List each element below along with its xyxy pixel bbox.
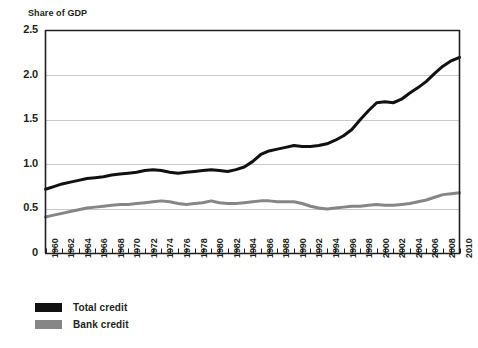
legend-item: Bank credit bbox=[35, 316, 129, 333]
x-tick-label: 1994 bbox=[331, 238, 341, 258]
series-lines bbox=[46, 57, 460, 217]
x-tick-label: 2004 bbox=[414, 238, 424, 258]
y-tick-label: 0 bbox=[12, 246, 38, 258]
legend-label: Total credit bbox=[73, 302, 127, 313]
x-tick-label: 1986 bbox=[265, 238, 275, 258]
x-tick-label: 1966 bbox=[99, 238, 109, 258]
x-tick-label: 1990 bbox=[298, 238, 308, 258]
chart-figure: Share of GDP 00.51.01.52.02.5 1960196219… bbox=[0, 0, 478, 348]
x-tick-label: 2006 bbox=[430, 238, 440, 258]
x-tick-label: 2002 bbox=[397, 238, 407, 258]
y-tick-label: 2.0 bbox=[12, 68, 38, 80]
x-tick-label: 1984 bbox=[248, 238, 258, 258]
legend-item: Total credit bbox=[35, 299, 129, 316]
x-tick-label: 1962 bbox=[66, 238, 76, 258]
legend-label: Bank credit bbox=[73, 319, 129, 330]
x-tick-label: 1972 bbox=[149, 238, 159, 258]
x-tick-label: 2000 bbox=[381, 238, 391, 258]
x-tick-label: 1996 bbox=[348, 238, 358, 258]
y-tick-label: 1.5 bbox=[12, 112, 38, 124]
x-tick-label: 1964 bbox=[83, 238, 93, 258]
x-tick-label: 1988 bbox=[281, 238, 291, 258]
x-tick-label: 1974 bbox=[165, 238, 175, 258]
plot-area bbox=[0, 0, 478, 348]
x-tick-label: 1976 bbox=[182, 238, 192, 258]
gridlines bbox=[46, 76, 460, 210]
legend-swatch bbox=[35, 303, 62, 312]
x-tick-label: 2008 bbox=[447, 238, 457, 258]
series-line-bank-credit bbox=[46, 193, 460, 217]
legend-swatch bbox=[35, 320, 62, 329]
x-tick-label: 1970 bbox=[132, 238, 142, 258]
x-tick-label: 1982 bbox=[232, 238, 242, 258]
y-tick-label: 0.5 bbox=[12, 201, 38, 213]
x-tick-label: 1968 bbox=[116, 238, 126, 258]
x-tick-label: 1978 bbox=[199, 238, 209, 258]
x-tick-label: 1980 bbox=[215, 238, 225, 258]
x-tick-label: 1960 bbox=[50, 238, 60, 258]
chart-legend: Total creditBank credit bbox=[35, 299, 129, 333]
series-line-total-credit bbox=[46, 57, 460, 189]
x-tick-label: 2010 bbox=[464, 238, 474, 258]
y-tick-label: 2.5 bbox=[12, 23, 38, 35]
x-tick-label: 1992 bbox=[314, 238, 324, 258]
y-tick-label: 1.0 bbox=[12, 157, 38, 169]
x-tick-label: 1998 bbox=[364, 238, 374, 258]
